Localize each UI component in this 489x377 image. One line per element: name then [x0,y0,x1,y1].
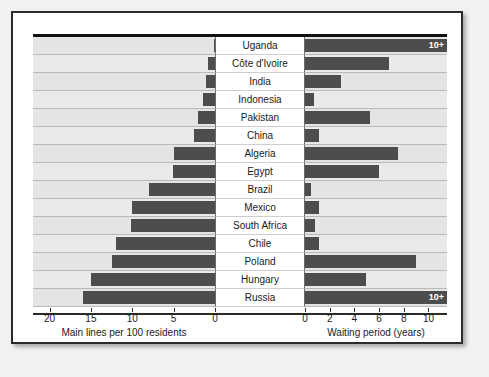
left-bar-track [33,109,215,127]
right-bar [305,201,319,214]
left-bar [206,75,215,88]
right-bar: 10+ [305,39,447,52]
chart-row: Mexico [33,199,447,217]
chart-row: Algeria [33,145,447,163]
plot-area: Uganda10+Côte d'IvoireIndiaIndonesiaPaki… [33,34,447,315]
left-bar [198,111,215,124]
category-label: Uganda [215,37,305,55]
left-bar [203,93,215,106]
category-label: Côte d'Ivoire [215,55,305,73]
left-axis: Main lines per 100 residents 20151050 [33,308,215,336]
chart-rows: Uganda10+Côte d'IvoireIndiaIndonesiaPaki… [33,37,447,307]
left-bar-track [33,37,215,55]
right-bar-track [305,253,447,271]
category-label: Algeria [215,145,305,163]
axis-tick-label: 10 [423,313,434,324]
left-bar [208,57,215,70]
right-axis-title: Waiting period (years) [305,327,447,338]
axis-tick [428,308,429,312]
left-bar-track [33,91,215,109]
chart-row: Hungary [33,271,447,289]
left-bar-track [33,145,215,163]
left-bar-track [33,163,215,181]
axis-tick-label: 10 [127,313,138,324]
left-bar [173,165,215,178]
left-bar-track [33,271,215,289]
right-bar-track: 10+ [305,37,447,55]
left-bar [132,201,215,214]
axis-tick [132,308,133,312]
left-axis-title: Main lines per 100 residents [33,327,215,338]
left-bar-track [33,127,215,145]
axis-tick [330,308,331,312]
axis-tick [404,308,405,312]
axis-tick-label: 0 [212,313,218,324]
right-bar-track [305,235,447,253]
right-bar [305,273,366,286]
right-bar [305,165,379,178]
chart-row: India [33,73,447,91]
chart-page: Uganda10+Côte d'IvoireIndiaIndonesiaPaki… [0,0,489,377]
axis-tick [174,308,175,312]
axis-tick-label: 5 [171,313,177,324]
right-bar-track [305,127,447,145]
axis-tick-label: 2 [327,313,333,324]
right-bar-track [305,55,447,73]
chart-row: Pakistan [33,109,447,127]
left-bar-track [33,181,215,199]
left-bar-track [33,199,215,217]
chart-row: Brazil [33,181,447,199]
right-bar-track: 10+ [305,289,447,307]
right-bar-track [305,199,447,217]
axis-tick [215,308,216,312]
axis-tick-label: 15 [85,313,96,324]
category-label: Poland [215,253,305,271]
right-bar-track [305,271,447,289]
chart-row: Côte d'Ivoire [33,55,447,73]
chart-row: Russia10+ [33,289,447,307]
right-bar: 10+ [305,291,447,304]
chart-row: China [33,127,447,145]
left-bar-track [33,217,215,235]
right-bar-track [305,73,447,91]
axis-tick-label: 4 [352,313,358,324]
left-bar [112,255,215,268]
left-bar-track [33,55,215,73]
right-bar-track [305,91,447,109]
right-bar [305,57,389,70]
category-label: Indonesia [215,91,305,109]
axis-tick [50,308,51,312]
right-bar-track [305,217,447,235]
category-label: Mexico [215,199,305,217]
category-label: Hungary [215,271,305,289]
chart-row: Indonesia [33,91,447,109]
left-bar-track [33,235,215,253]
left-bar [91,273,215,286]
category-label: China [215,127,305,145]
bar-value-label: 10+ [429,291,444,304]
axis-tick [305,308,306,312]
right-bar [305,255,416,268]
axis-tick [91,308,92,312]
right-bar [305,75,341,88]
chart-row: Uganda10+ [33,37,447,55]
axis-tick-label: 0 [302,313,308,324]
left-bar-track [33,73,215,91]
left-bar [83,291,215,304]
category-label: India [215,73,305,91]
right-bar [305,111,370,124]
bar-value-label: 10+ [429,39,444,52]
axis-tick-label: 6 [376,313,382,324]
chart-frame: Uganda10+Côte d'IvoireIndiaIndonesiaPaki… [11,11,463,344]
axis-tick-label: 20 [44,313,55,324]
right-bar-track [305,145,447,163]
right-bar [305,183,311,196]
right-bar-track [305,181,447,199]
chart-row: Egypt [33,163,447,181]
axis-tick [379,308,380,312]
right-bar-track [305,163,447,181]
left-bar [116,237,215,250]
category-label: Pakistan [215,109,305,127]
category-label: Egypt [215,163,305,181]
chart-row: Chile [33,235,447,253]
